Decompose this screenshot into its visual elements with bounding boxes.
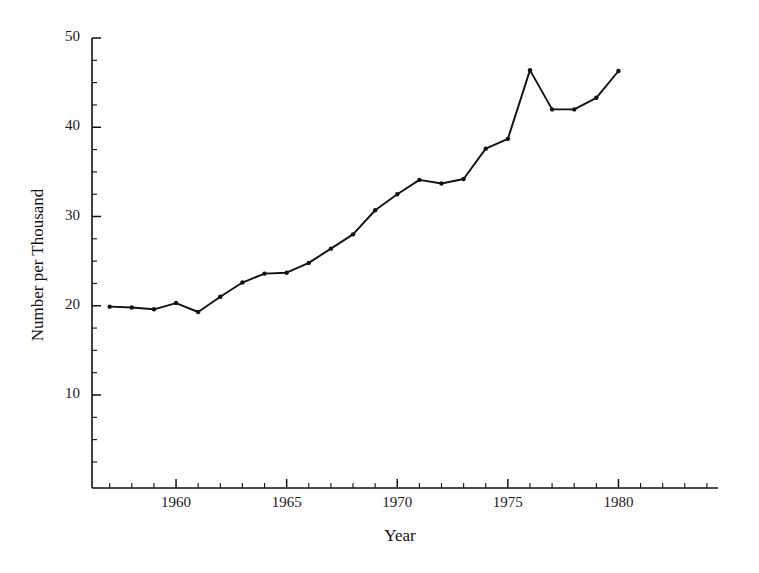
data-point-marker — [218, 295, 222, 299]
y-tick-label: 40 — [18, 117, 80, 134]
data-point-marker — [528, 68, 532, 72]
data-series — [108, 68, 621, 314]
data-point-marker — [130, 305, 134, 309]
data-point-marker — [108, 304, 112, 308]
x-tick-label: 1960 — [136, 494, 216, 511]
x-tick-label: 1965 — [247, 494, 327, 511]
data-point-marker — [484, 146, 488, 150]
axis-lines — [92, 38, 718, 488]
data-point-marker — [439, 181, 443, 185]
data-point-marker — [395, 192, 399, 196]
y-tick-label: 10 — [18, 385, 80, 402]
series-line — [110, 70, 619, 312]
axis-ticks — [92, 38, 707, 488]
data-point-marker — [506, 137, 510, 141]
data-point-marker — [417, 178, 421, 182]
plot-area — [0, 0, 759, 573]
line-chart: 1020304050 19601965197019751980 Number p… — [0, 0, 759, 573]
data-point-marker — [550, 107, 554, 111]
data-point-marker — [594, 96, 598, 100]
data-point-marker — [461, 177, 465, 181]
x-tick-label: 1980 — [578, 494, 658, 511]
data-point-marker — [240, 280, 244, 284]
x-tick-label: 1970 — [357, 494, 437, 511]
data-point-marker — [262, 271, 266, 275]
data-point-marker — [196, 310, 200, 314]
y-tick-label: 50 — [18, 28, 80, 45]
data-point-marker — [152, 307, 156, 311]
data-point-marker — [174, 301, 178, 305]
x-axis-title: Year — [0, 526, 759, 546]
x-tick-label: 1975 — [468, 494, 548, 511]
data-point-marker — [373, 208, 377, 212]
y-axis-title: Number per Thousand — [28, 165, 48, 365]
data-point-marker — [307, 261, 311, 265]
data-point-marker — [284, 271, 288, 275]
data-point-marker — [351, 232, 355, 236]
data-point-marker — [616, 69, 620, 73]
data-point-marker — [329, 246, 333, 250]
data-point-marker — [572, 107, 576, 111]
